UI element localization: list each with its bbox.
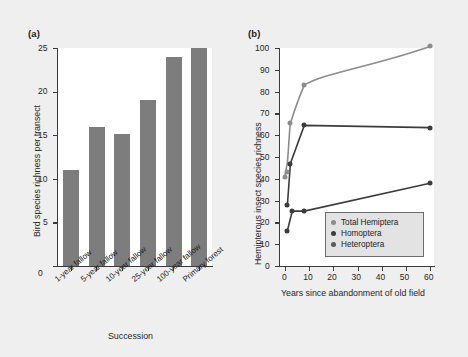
point-heteroptera-3 [428, 181, 433, 186]
panel-a-ytick-label-0: 0 [38, 268, 43, 278]
point-total-hemiptera-1 [285, 170, 290, 175]
panel-a-ytick-label-5: 5 [43, 217, 48, 227]
panel-a-ytick-10 [53, 179, 57, 180]
panel-a-y-axis-title: Bird species richness per transect [32, 105, 42, 237]
panel-b-y-axis-title: Hemipterous insect species richness [253, 122, 263, 265]
legend-label-total-hemiptera: Total Hemiptera [341, 217, 398, 228]
legend-dot-total-hemiptera [331, 220, 336, 225]
bar-5-year-fallow [89, 127, 105, 267]
legend-label-homoptera: Homoptera [341, 228, 382, 239]
series-line-total-hemiptera [285, 46, 430, 176]
legend-item-total-hemiptera: Total Hemiptera [331, 217, 416, 228]
point-total-hemiptera-2 [288, 121, 293, 126]
legend-dot-homoptera [331, 231, 336, 236]
panel-b: (b) 0 10 20 30 40 50 60 70 80 90 100 0 1… [234, 0, 468, 357]
legend-item-heteroptera: Heteroptera [331, 239, 416, 250]
panel-a-bars [58, 48, 212, 266]
panel-a: (a) 0 5 10 15 20 25 [0, 0, 234, 357]
panel-a-ytick-20 [53, 92, 57, 93]
panel-b-x-axis-title: Years since abandonment of old field [281, 288, 425, 298]
point-homoptera-1 [288, 161, 293, 166]
panel-b-series-lines [234, 0, 468, 357]
point-heteroptera-1 [290, 209, 295, 214]
panel-a-x-axis-title: Succession [108, 331, 153, 341]
bar-25-year-fallow [140, 100, 156, 266]
bar-100-year-fallow [166, 57, 182, 266]
point-total-hemiptera-4 [428, 44, 433, 49]
bar-1-year-fallow [63, 170, 79, 266]
panel-a-x-axis [57, 266, 213, 267]
point-homoptera-0 [285, 203, 290, 208]
panel-a-ytick-25 [53, 48, 57, 49]
point-heteroptera-0 [285, 228, 290, 233]
point-homoptera-3 [428, 125, 433, 130]
point-total-hemiptera-3 [302, 83, 307, 88]
bar-10-year-fallow [114, 134, 130, 267]
panel-b-legend: Total Hemiptera Homoptera Heteroptera [325, 212, 424, 257]
legend-item-homoptera: Homoptera [331, 228, 416, 239]
bar-primary-forest [191, 48, 207, 266]
panel-a-ytick-label-25: 25 [38, 43, 47, 53]
point-homoptera-2 [302, 123, 307, 128]
panel-a-ytick-label-20: 20 [38, 86, 47, 96]
legend-dot-heteroptera [331, 242, 336, 247]
series-line-homoptera [287, 125, 430, 205]
figure-container: (a) 0 5 10 15 20 25 [0, 0, 468, 357]
panel-a-ytick-15 [53, 135, 57, 136]
panel-a-ytick-0 [53, 266, 57, 267]
point-total-hemiptera-0 [283, 174, 288, 179]
point-heteroptera-2 [302, 209, 307, 214]
panel-a-label: (a) [28, 28, 40, 39]
panel-a-ytick-5 [53, 222, 57, 223]
legend-label-heteroptera: Heteroptera [341, 239, 384, 250]
